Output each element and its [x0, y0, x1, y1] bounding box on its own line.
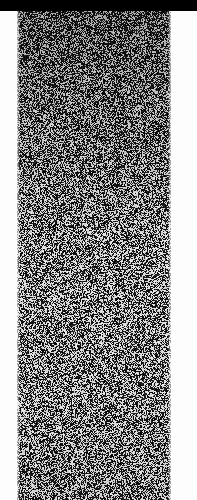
right-paper-margin	[171, 11, 197, 500]
left-paper-margin	[0, 11, 17, 500]
noise-texture	[17, 11, 171, 500]
image-canvas	[0, 0, 197, 500]
speckle-noise-field	[17, 11, 171, 500]
black-header-bar	[0, 0, 197, 11]
